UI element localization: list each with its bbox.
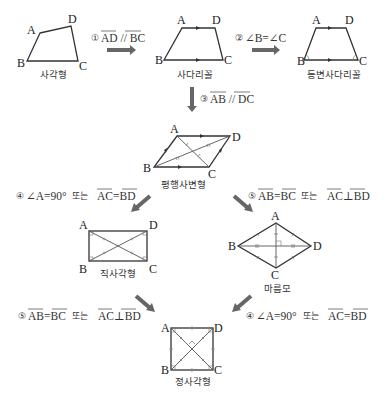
vertex-a-label: A (177, 13, 186, 27)
vertex-d-label: D (68, 12, 77, 26)
vertex-a-label: A (79, 218, 88, 232)
vertex-a-label: A (161, 321, 170, 335)
condition-4-eq: AC=BD (328, 310, 366, 322)
right-arrow-icon (252, 45, 280, 55)
right-arrow-icon (107, 45, 136, 55)
condition-3: ③ AB // DC (187, 87, 254, 112)
vertex-b-label: B (297, 54, 305, 68)
rectangle-figure: A D B C 직사각형 (79, 218, 158, 279)
condition-4-eq: AC=BD (97, 190, 135, 202)
vertex-b-label: B (228, 239, 236, 253)
condition-5-eq2: AC⊥BD (327, 190, 370, 202)
vertex-d-label: D (313, 239, 322, 253)
condition-1-text: AD // BC (101, 32, 145, 44)
square-name: 정사각형 (175, 376, 211, 387)
vertex-a-label: A (271, 209, 280, 223)
vertex-b-label: B (17, 56, 25, 70)
rhombus-name: 마름모 (264, 283, 291, 294)
condition-5-eq2: AC⊥BD (98, 310, 141, 322)
condition-1-number: ① (91, 33, 99, 43)
vertex-b-label: B (155, 53, 163, 67)
down-left-arrow-icon (232, 296, 251, 312)
quadrilateral-hierarchy-diagram: A D B C 사각형 ① AD // BC A D B C 사다리꼴 ② ∠B… (0, 0, 384, 400)
condition-5-left: ⑤ AB=BC 또는 AC⊥BD (18, 296, 155, 322)
vertex-b-label: B (161, 363, 169, 377)
condition-5-eq1: AB=BC (28, 310, 66, 322)
trapezoid-name: 사다리꼴 (177, 69, 213, 80)
square-figure: A D B C 정사각형 (161, 321, 223, 387)
condition-5-number: ⑤ (18, 311, 26, 321)
vertex-a-label: A (170, 122, 179, 136)
vertex-d-label: D (345, 13, 354, 27)
vertex-c-label: C (79, 59, 87, 73)
trapezoid-outline (164, 28, 223, 60)
vertex-c-label: C (224, 53, 232, 67)
vertex-c-label: C (271, 268, 279, 282)
condition-4-angle: ∠A=90° (26, 190, 67, 202)
vertex-a-label: A (312, 13, 321, 27)
vertex-b-label: B (79, 262, 87, 276)
quadrilateral-name: 사각형 (40, 69, 67, 80)
condition-5-or: 또는 (301, 191, 317, 201)
condition-4-number: ④ (246, 311, 254, 321)
vertex-c-label: C (359, 54, 367, 68)
rhombus-outline (238, 223, 311, 268)
condition-4-right: ④ ∠A=90° 또는 AC=BD (232, 296, 368, 322)
condition-4-left: ④ ∠A=90° 또는 AC=BD (16, 189, 150, 212)
vertex-c-label: C (214, 363, 222, 377)
condition-5-eq1: AB=BC (258, 190, 296, 202)
rectangle-name: 직사각형 (100, 268, 136, 279)
condition-1: ① AD // BC (91, 31, 145, 55)
quadrilateral-figure: A D B C 사각형 (17, 12, 87, 80)
condition-4-angle: ∠A=90° (256, 310, 297, 322)
condition-5-number: ⑤ (248, 191, 256, 201)
vertex-d-label: D (232, 130, 241, 144)
vertex-c-label: C (208, 167, 216, 181)
condition-2-number: ② (235, 33, 243, 43)
rhombus-figure: A D B C 마름모 (228, 209, 322, 294)
down-arrow-icon (187, 87, 197, 112)
condition-4-number: ④ (16, 191, 24, 201)
condition-2-text: ∠B=∠C (245, 32, 286, 44)
condition-5-or: 또는 (72, 311, 88, 321)
isosceles-trapezoid-outline (304, 28, 358, 60)
condition-4-or: 또는 (303, 311, 319, 321)
condition-3-number: ③ (200, 94, 208, 104)
condition-4-or: 또는 (72, 191, 88, 201)
isosceles-trapezoid-figure: A D B C 등변사다리꼴 (297, 13, 367, 80)
vertex-b-label: B (143, 161, 151, 175)
vertex-d-label: D (212, 13, 221, 27)
vertex-c-label: C (149, 262, 157, 276)
vertex-a-label: A (27, 23, 36, 37)
condition-2: ② ∠B=∠C (235, 32, 286, 55)
condition-5-right: ⑤ AB=BC 또는 AC⊥BD (234, 189, 370, 212)
isosceles-trapezoid-name: 등변사다리꼴 (307, 69, 361, 80)
parallelogram-figure: A D B C 평행사변형 (143, 122, 241, 190)
parallelogram-name: 평행사변형 (161, 179, 206, 190)
vertex-d-label: D (149, 218, 158, 232)
trapezoid-figure: A D B C 사다리꼴 (155, 13, 232, 80)
condition-3-text: AB // DC (210, 93, 254, 105)
vertex-d-label: D (214, 321, 223, 335)
